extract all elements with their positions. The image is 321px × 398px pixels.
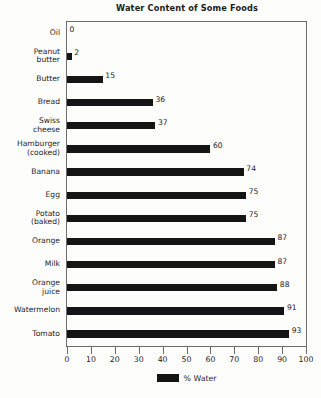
bar [67,215,246,222]
category-label: Banana [0,168,60,177]
category-label: Milk [0,260,60,269]
category-label: Orangejuice [0,279,60,296]
x-tick-label: 90 [277,355,287,364]
bar-row: 87 [67,253,306,276]
category-label-line: Bread [0,98,60,107]
x-tick-label: 20 [110,355,120,364]
chart-legend: % Water [66,371,307,385]
category-label-line: Watermelon [0,306,60,315]
x-tick-label: 80 [253,355,263,364]
bar [67,145,210,152]
x-tick-label: 50 [182,355,192,364]
category-label-line: juice [0,288,60,297]
x-tick-label: 10 [86,355,96,364]
x-tick-label: 30 [134,355,144,364]
category-label: Orange [0,237,60,246]
bar-value-label: 75 [249,210,259,219]
bar-value-label: 60 [213,141,223,150]
category-label-line: (cooked) [0,149,60,158]
chart-title: Water Content of Some Foods [66,3,308,13]
category-label: Potato(baked) [0,210,60,227]
x-tick-label: 70 [229,355,239,364]
category-label-line: Oil [0,29,60,38]
bar [67,307,284,314]
x-tick [234,347,235,354]
x-tick [306,347,307,354]
bar-value-label: 2 [74,48,79,57]
bar [67,99,153,106]
x-tick [91,347,92,354]
category-label: Tomato [0,330,60,339]
bar-row: 75 [67,207,306,230]
bar-row: 91 [67,300,306,323]
bar-row: 60 [67,138,306,161]
x-tick-label: 60 [205,355,215,364]
bar-row: 75 [67,184,306,207]
bar-row: 88 [67,277,306,300]
bar-row: 36 [67,91,306,114]
x-tick [139,347,140,354]
category-label: Butter [0,75,60,84]
category-label: Hamburger(cooked) [0,140,60,157]
chart-container: Water Content of Some Foods OilPeanutbut… [0,0,321,398]
x-tick [115,347,116,354]
category-label: Peanutbutter [0,48,60,65]
legend-label-water: % Water [184,374,217,383]
bar [67,122,155,129]
bar-value-label: 87 [277,257,287,266]
bar-value-label: 91 [287,303,297,312]
bar-value-label: 36 [156,95,166,104]
category-label: Swisscheese [0,117,60,134]
bar-row: 74 [67,161,306,184]
bar-value-label: 0 [70,25,75,34]
category-label-line: Banana [0,168,60,177]
bar-row: 37 [67,115,306,138]
y-axis-category-labels: OilPeanutbutterButterBreadSwisscheeseHam… [0,22,63,346]
bar [67,261,275,268]
bar [67,192,246,199]
bar [67,284,277,291]
bar-row: 2 [67,45,306,68]
category-label-line: Butter [0,75,60,84]
bar-value-label: 93 [292,326,302,335]
category-label-line: Egg [0,191,60,200]
bar-row: 0 [67,22,306,45]
category-label-line: butter [0,56,60,65]
x-tick [258,347,259,354]
bar [67,238,275,245]
x-tick-label: 40 [158,355,168,364]
category-label-line: Milk [0,260,60,269]
category-label: Egg [0,191,60,200]
category-label: Oil [0,29,60,38]
bar-row: 15 [67,68,306,91]
x-tick [282,347,283,354]
bar [67,53,72,60]
bar [67,330,289,337]
x-tick [210,347,211,354]
x-tick [187,347,188,354]
x-tick-label: 100 [299,355,314,364]
bar-value-label: 75 [249,187,259,196]
bar [67,76,103,83]
category-label: Watermelon [0,306,60,315]
x-tick-label: 0 [65,355,70,364]
legend-swatch-water [157,374,179,382]
category-label-line: Tomato [0,330,60,339]
x-axis-ticks [67,347,307,355]
plot-area: 02153637607475758787889193 [67,22,306,346]
bar-value-label: 37 [158,118,168,127]
bar-value-label: 87 [277,233,287,242]
category-label-line: cheese [0,126,60,135]
category-label: Bread [0,98,60,107]
bar-row: 87 [67,230,306,253]
bar-value-label: 74 [246,164,256,173]
bar [67,168,244,175]
x-tick [163,347,164,354]
x-tick [67,347,68,354]
bar-row: 93 [67,323,306,346]
x-axis-tick-labels: 0102030405060708090100 [67,355,307,367]
category-label-line: Orange [0,237,60,246]
bar-value-label: 88 [280,280,290,289]
bar-value-label: 15 [105,71,115,80]
category-label-line: (baked) [0,218,60,227]
